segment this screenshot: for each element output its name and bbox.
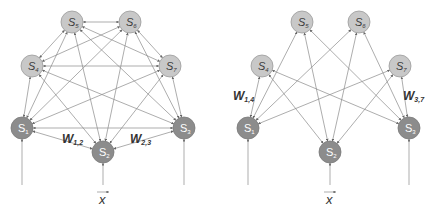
- node-s5: S5: [291, 11, 313, 33]
- edge-S1-S7: [258, 70, 390, 124]
- weight-label-2-3: W2,3: [130, 132, 151, 147]
- edge-S1-S7: [32, 70, 160, 123]
- edges-right: [250, 30, 407, 144]
- edge-S1-S6: [256, 30, 351, 121]
- edge-S2-S6: [332, 33, 356, 142]
- node-s2: S2: [319, 141, 341, 163]
- edge-S3-S5: [310, 30, 401, 121]
- input-x-label: x: [325, 192, 333, 207]
- edge-S3-S4: [272, 70, 399, 123]
- edge-S3-S7: [172, 77, 181, 118]
- node-s3: S3: [173, 117, 195, 139]
- edge-S2-S5: [75, 33, 101, 142]
- restricted-network: S1S2S3S4S5S6S7 W1,4W3,7x: [233, 11, 425, 207]
- node-s2: S2: [92, 141, 114, 163]
- node-s3: S3: [398, 117, 420, 139]
- edge-S3-S4: [42, 70, 174, 124]
- edges-left: [24, 22, 182, 149]
- node-s4: S4: [251, 55, 273, 77]
- edge-S4-S5: [39, 30, 64, 58]
- edge-S2-S5: [304, 33, 327, 141]
- network-diagrams: S1S2S3S4S5S6S7 W1,2W2,3x S1S2S3S4S5S6S7 …: [0, 0, 431, 212]
- edge-S2-S4: [269, 75, 323, 144]
- edge-S1-S4: [24, 77, 30, 117]
- input-x-label: x: [98, 192, 106, 207]
- nodes-right: S1S2S3S4S5S6S7: [237, 11, 420, 163]
- weight-label-1-4: W1,4: [233, 89, 254, 104]
- node-s6: S6: [119, 11, 141, 33]
- node-s6: S6: [348, 11, 370, 33]
- fully-connected-network: S1S2S3S4S5S6S7 W1,2W2,3x: [11, 11, 195, 207]
- node-s4: S4: [21, 55, 43, 77]
- node-s1: S1: [11, 117, 33, 139]
- node-s5: S5: [61, 11, 83, 33]
- node-s7: S7: [389, 55, 411, 77]
- weight-label-1-2: W1,2: [62, 132, 83, 147]
- edge-S5-S7: [82, 27, 160, 62]
- weight-label-3-7: W3,7: [403, 89, 425, 104]
- edge-S1-S6: [30, 30, 122, 121]
- edge-S3-S5: [80, 30, 176, 121]
- node-s7: S7: [159, 55, 181, 77]
- node-s1: S1: [237, 117, 259, 139]
